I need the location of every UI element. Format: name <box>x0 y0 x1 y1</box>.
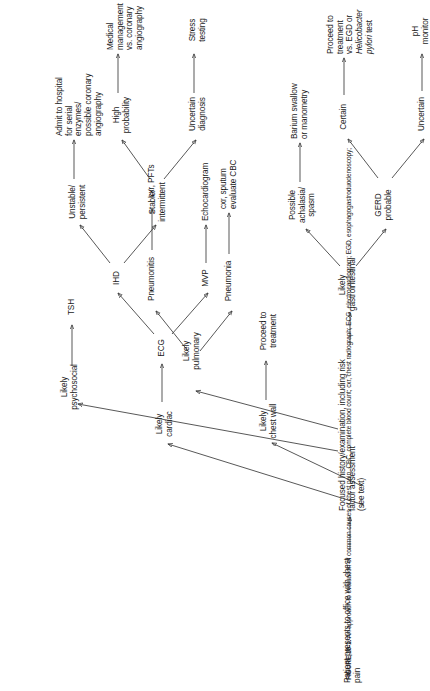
figure-label: FIGURE 10-1. <box>345 640 352 680</box>
node-achalasia: Possible achalasia/ spasm <box>288 181 317 229</box>
node-echo: Echocardiogram <box>201 141 211 221</box>
node-high-prob: High probability <box>112 91 131 139</box>
edge-gi-achalasia <box>306 229 340 266</box>
node-cxr-sputum: cxr, sputum evaluate CBC <box>219 137 238 209</box>
node-proceed-treat: Proceed to treatment <box>259 303 278 359</box>
node-mvp: MVP <box>201 263 211 293</box>
node-barium: Barium swallow or manometry <box>290 59 309 139</box>
figure-description: An approach to evaluation of common caus… <box>345 470 352 638</box>
figure-abbreviations: CBC, complete blood count; cxr, chest ra… <box>345 148 352 468</box>
node-psychosocial: Likely psychosocial <box>60 363 79 411</box>
node-chestwall: Likely chest wall <box>259 397 278 445</box>
edge-gi-gerd <box>356 229 386 266</box>
node-ihd: IHD <box>112 264 122 292</box>
node-stable: Stable/ intermittent <box>148 177 167 227</box>
node-ph-monitor: pH monitor <box>411 11 430 51</box>
edge-ihd-unstable <box>80 225 110 263</box>
figure-caption: FIGURE 10-1. An approach to evaluation o… <box>345 8 353 680</box>
node-uncertain-dx: Uncertain diagnosis <box>188 89 207 139</box>
edge-workup-cardiac <box>168 444 364 505</box>
node-cardiac: Likely cardiac <box>155 401 174 447</box>
edge-pulmonary-pneumonia <box>200 311 232 351</box>
node-tsh: TSH <box>67 293 77 321</box>
node-pulmonary: Likely pulmonary <box>182 329 201 373</box>
node-medical-mgmt: Medical management vs. coronary angiogra… <box>106 0 145 50</box>
edge-ecg-mvp <box>172 293 208 334</box>
node-unstable: Unstable/ persistent <box>68 177 87 227</box>
edge-stable-highprob <box>122 140 150 179</box>
node-ecg: ECG <box>157 333 167 363</box>
node-uncertain: Uncertain <box>417 89 427 139</box>
node-admit: Admit to hospital for serial enzymes/ po… <box>55 52 103 136</box>
edge-stable-uncertaindx <box>164 140 196 179</box>
node-pneumonitis: Pneumonitis <box>147 249 157 309</box>
node-gerd: GERD probable <box>374 181 393 229</box>
edge-workup-psychosocial <box>78 404 338 451</box>
node-pneumonia: Pneumonia <box>224 253 234 309</box>
node-stress: Stress testing <box>188 9 207 51</box>
treat-egd-line2: test <box>365 20 374 35</box>
edge-gerd-uncertain <box>392 139 424 178</box>
